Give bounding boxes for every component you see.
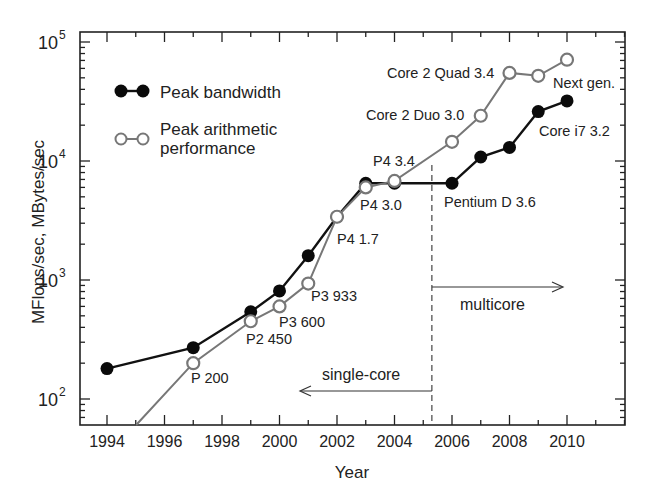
y-tick-label: 10 — [38, 33, 58, 53]
data-point-filled — [503, 141, 516, 154]
data-point-open — [446, 136, 458, 148]
x-tick-label: 1994 — [89, 433, 125, 450]
data-point-open — [475, 110, 487, 122]
data-point-filled — [101, 362, 114, 375]
legend-label: Peak bandwidth — [160, 83, 281, 102]
point-label: P4 1.7 — [337, 231, 379, 247]
y-tick-label: 10 — [38, 390, 58, 410]
data-point-filled — [474, 151, 487, 164]
legend-label: performance — [160, 139, 255, 158]
x-tick-label: 2004 — [377, 433, 413, 450]
point-label: P4 3.4 — [373, 153, 415, 169]
point-label: Core i7 3.2 — [539, 123, 610, 139]
y-tick-exponent: 4 — [59, 147, 66, 161]
point-label: P3 933 — [311, 288, 357, 304]
x-tick-label: 2008 — [492, 433, 528, 450]
data-point-open — [187, 357, 199, 369]
x-tick-label: 2006 — [434, 433, 470, 450]
data-point-open — [331, 211, 343, 223]
x-tick-label: 2002 — [319, 433, 355, 450]
point-label: P 200 — [191, 370, 229, 386]
point-label: Core 2 Duo 3.0 — [366, 107, 464, 123]
x-tick-label: 1998 — [204, 433, 240, 450]
chart: 1994199619982000200220042006200820101021… — [0, 0, 648, 499]
point-label: P2 450 — [246, 331, 292, 347]
point-label: Pentium D 3.6 — [444, 194, 536, 210]
data-point-open — [532, 70, 544, 82]
x-axis-label: Year — [335, 463, 370, 482]
x-tick-label: 2010 — [549, 433, 585, 450]
data-point-filled — [561, 94, 574, 107]
legend-marker-open — [138, 134, 149, 145]
data-point-open — [389, 175, 401, 187]
y-axis-label: MFlops/sec, MBytes/sec — [29, 139, 48, 324]
point-label: Core 2 Quad 3.4 — [387, 65, 494, 81]
point-label: Next gen. — [553, 75, 615, 91]
data-point-filled — [187, 341, 200, 354]
legend-marker-open — [116, 134, 127, 145]
data-point-open — [360, 181, 372, 193]
data-point-filled — [273, 284, 286, 297]
point-label: P4 3.0 — [360, 197, 402, 213]
y-tick-exponent: 5 — [59, 28, 66, 42]
x-tick-label: 2000 — [262, 433, 298, 450]
multicore-label: multicore — [460, 296, 525, 313]
point-annotations: P 200P2 450P3 600P3 933P4 1.7P4 3.0P4 3.… — [191, 65, 615, 386]
legend-marker-filled — [115, 85, 128, 98]
single-core-label: single-core — [322, 366, 400, 383]
y-tick-exponent: 3 — [59, 266, 66, 280]
y-tick-exponent: 2 — [59, 385, 66, 399]
data-point-open — [274, 300, 286, 312]
data-point-open — [245, 315, 257, 327]
point-label: P3 600 — [279, 314, 325, 330]
data-point-filled — [532, 105, 545, 118]
legend: Peak bandwidthPeak arithmeticperformance — [115, 83, 281, 158]
data-point-filled — [446, 177, 459, 190]
x-tick-label: 1996 — [147, 433, 183, 450]
data-point-open — [504, 67, 516, 79]
legend-label: Peak arithmetic — [160, 120, 278, 139]
data-point-open — [561, 54, 573, 66]
legend-marker-filled — [137, 85, 150, 98]
data-point-filled — [302, 249, 315, 262]
